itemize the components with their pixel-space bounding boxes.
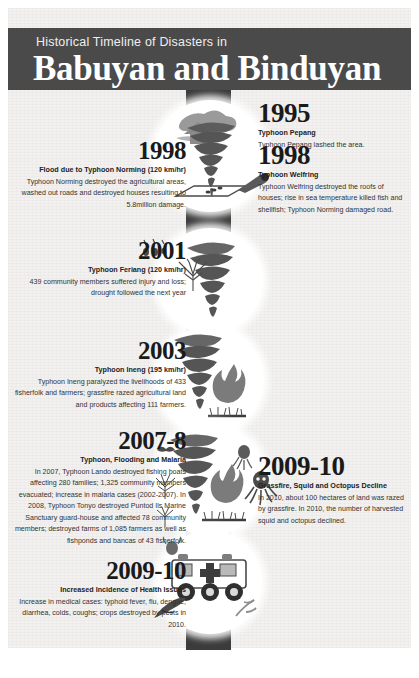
entry-headline: Flood due to Typhoon Norming (120 km/hr): [16, 165, 186, 175]
entry-body: In 2007, Typhoon Lando destroyed fishing…: [10, 467, 186, 547]
squid-icon: [232, 444, 256, 470]
entry-headline: Typhoon Feriang (120 km/hr): [16, 265, 186, 275]
timeline-entry-1998-left: 1998 Flood due to Typhoon Norming (120 k…: [16, 138, 186, 211]
entry-year: 2009-10: [14, 558, 186, 584]
entry-year: 2007-8: [10, 428, 186, 454]
header-subtitle: Historical Timeline of Disasters in: [36, 35, 227, 49]
entry-body: Typhoon Norming destroyed the agricultur…: [16, 177, 186, 211]
timeline-entry-2009-10-left: 2009-10 Increased Incidence of Health Is…: [14, 558, 186, 631]
entry-body: Increase in medical cases: typhoid fever…: [14, 597, 186, 631]
entry-year: 1995: [258, 99, 408, 127]
entry-year: 2003: [12, 338, 186, 364]
entry-body: 439 community members suffered injury an…: [16, 277, 186, 300]
page-margin-top: [0, 0, 419, 8]
timeline-entry-2009-10-right: 2009-10 Grassfire, Squid and Octopus Dec…: [258, 452, 408, 527]
timeline-entry-1998-right: 1998 Typhoon Welfring Typhoon Welfring d…: [258, 141, 406, 216]
timeline-entry-2003: 2003 Typhoon Ineng (195 km/hr) Typhoon I…: [12, 338, 186, 411]
entry-headline: Typhoon Ineng (195 km/hr): [12, 365, 186, 375]
page-margin-bottom: [0, 648, 419, 678]
entry-headline: Typhoon, Flooding and Malaria: [10, 455, 186, 465]
entry-year: 1998: [258, 141, 406, 169]
entry-year: 2001: [16, 238, 186, 264]
entry-body: Typhoon Ineng paralyzed the livelihoods …: [12, 377, 186, 411]
entry-headline: Typhoon Welfring: [258, 170, 406, 180]
timeline-entry-2007-8: 2007-8 Typhoon, Flooding and Malaria In …: [10, 428, 186, 547]
entry-headline: Grassfire, Squid and Octopus Decline: [258, 481, 408, 491]
entry-body: In 2010, about 100 hectares of land was …: [258, 493, 408, 527]
entry-year: 2009-10: [258, 452, 408, 480]
page-margin-left: [0, 0, 8, 678]
infographic-poster: Historical Timeline of Disasters in Babu…: [0, 0, 419, 678]
pest-icon: [232, 592, 264, 620]
entry-headline: Typhoon Pepang: [258, 128, 408, 138]
timeline-entry-2001: 2001 Typhoon Feriang (120 km/hr) 439 com…: [16, 238, 186, 300]
entry-year: 1998: [16, 138, 186, 164]
page-margin-right: [411, 0, 419, 678]
entry-body: Typhoon Welfring destroyed the roofs of …: [258, 182, 406, 216]
entry-headline: Increased Incidence of Health Issues: [14, 585, 186, 595]
page-title: Babuyan and Binduyan: [33, 49, 381, 89]
